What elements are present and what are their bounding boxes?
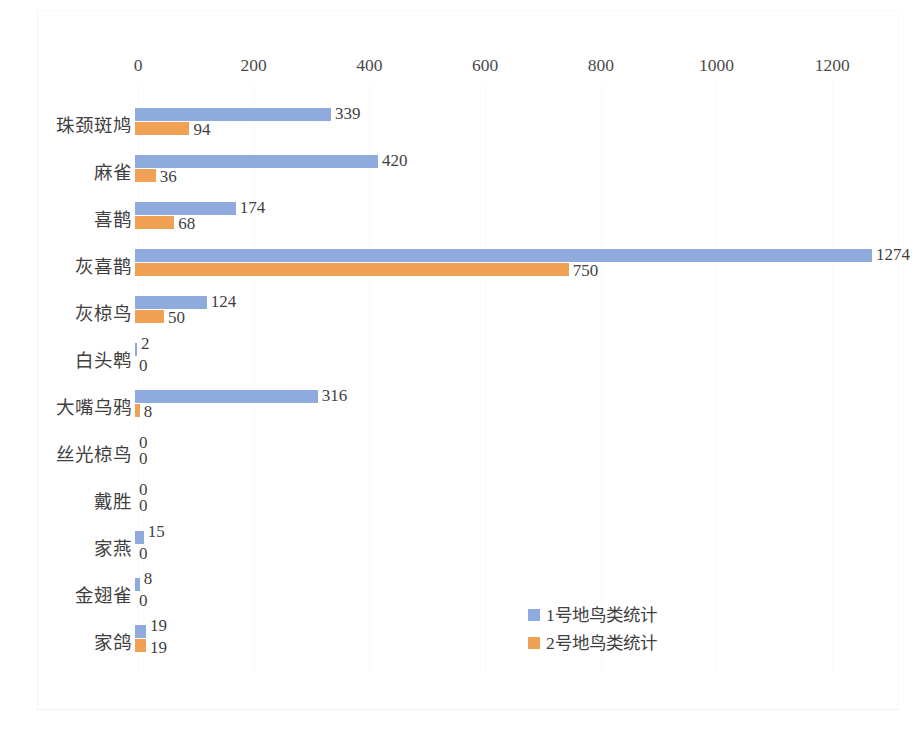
- bar-group: 3168: [135, 390, 318, 417]
- category-label-5: 白头鹎: [0, 346, 132, 376]
- bar-1号地鸟类统计-家燕[interactable]: 15: [135, 531, 144, 544]
- bar-2号地鸟类统计-大嘴乌鸦[interactable]: 8: [135, 404, 140, 417]
- chart-row: 大嘴乌鸦3168: [0, 385, 915, 432]
- x-tick-800: 800: [588, 52, 614, 78]
- bar-value-label: 1274: [876, 245, 910, 265]
- x-tick-1000: 1000: [699, 52, 734, 78]
- bar-1号地鸟类统计-珠颈斑鸠[interactable]: 339: [135, 108, 331, 121]
- bar-value-label: 2: [141, 334, 150, 354]
- category-label-6: 大嘴乌鸦: [0, 393, 132, 423]
- bar-2号地鸟类统计-家鸽[interactable]: 19: [135, 639, 146, 652]
- bar-2号地鸟类统计-灰椋鸟[interactable]: 50: [135, 310, 164, 323]
- category-label-8: 戴胜: [0, 487, 132, 517]
- x-axis-tick-labels: 020040060080010001200: [0, 52, 915, 78]
- bar-group: 150: [135, 531, 144, 558]
- category-label-0: 珠颈斑鸠: [0, 111, 132, 141]
- bar-value-label: 0: [139, 544, 148, 564]
- bar-2号地鸟类统计-喜鹊[interactable]: 68: [135, 216, 174, 229]
- bar-value-label: 94: [193, 120, 210, 140]
- bar-value-label: 0: [139, 449, 148, 469]
- legend-item-1[interactable]: 2号地鸟类统计: [528, 629, 657, 657]
- category-label-9: 家燕: [0, 534, 132, 564]
- bar-value-label: 68: [178, 214, 195, 234]
- bar-1号地鸟类统计-白头鹎[interactable]: 2: [135, 343, 137, 356]
- bar-value-label: 124: [211, 292, 237, 312]
- bar-value-label: 50: [168, 308, 185, 328]
- category-label-11: 家鸽: [0, 628, 132, 658]
- bar-group: 20: [135, 343, 137, 370]
- bar-group: 1274750: [135, 249, 872, 276]
- bar-group: 17468: [135, 202, 236, 229]
- legend-label: 2号地鸟类统计: [546, 629, 657, 657]
- x-tick-0: 0: [134, 52, 143, 78]
- bar-value-label: 750: [573, 261, 599, 281]
- category-label-7: 丝光椋鸟: [0, 440, 132, 470]
- category-label-1: 麻雀: [0, 158, 132, 188]
- chart-row: 白头鹎20: [0, 338, 915, 385]
- bar-group: 1919: [135, 625, 146, 652]
- bar-value-label: 316: [322, 386, 348, 406]
- legend-swatch-icon: [528, 609, 540, 621]
- bar-value-label: 420: [382, 151, 408, 171]
- chart-row: 戴胜00: [0, 479, 915, 526]
- bar-value-label: 36: [160, 167, 177, 187]
- bar-value-label: 0: [139, 496, 148, 516]
- chart-row: 家鸽1919: [0, 620, 915, 667]
- bar-1号地鸟类统计-金翅雀[interactable]: 8: [135, 578, 140, 591]
- bar-value-label: 0: [139, 356, 148, 376]
- bar-value-label: 8: [144, 402, 153, 422]
- plot-area: 珠颈斑鸠33994麻雀42036喜鹊17468灰喜鹊1274750灰椋鸟1245…: [0, 82, 915, 672]
- legend-label: 1号地鸟类统计: [546, 601, 657, 629]
- chart-row: 丝光椋鸟00: [0, 432, 915, 479]
- legend-swatch-icon: [528, 637, 540, 649]
- chart-row: 灰椋鸟12450: [0, 291, 915, 338]
- bar-1号地鸟类统计-大嘴乌鸦[interactable]: 316: [135, 390, 318, 403]
- category-label-4: 灰椋鸟: [0, 299, 132, 329]
- bar-group: 42036: [135, 155, 378, 182]
- legend-item-0[interactable]: 1号地鸟类统计: [528, 601, 657, 629]
- chart-row: 金翅雀80: [0, 573, 915, 620]
- category-label-10: 金翅雀: [0, 581, 132, 611]
- bar-value-label: 19: [150, 638, 167, 658]
- chart-row: 珠颈斑鸠33994: [0, 103, 915, 150]
- chart-row: 家燕150: [0, 526, 915, 573]
- bar-value-label: 0: [139, 591, 148, 611]
- bar-value-label: 174: [240, 198, 266, 218]
- bar-group: 33994: [135, 108, 331, 135]
- x-tick-200: 200: [241, 52, 267, 78]
- bar-1号地鸟类统计-家鸽[interactable]: 19: [135, 625, 146, 638]
- category-label-2: 喜鹊: [0, 205, 132, 235]
- x-tick-600: 600: [472, 52, 498, 78]
- bar-value-label: 8: [144, 569, 153, 589]
- bar-value-label: 339: [335, 104, 361, 124]
- bar-value-label: 15: [148, 522, 165, 542]
- chart-row: 灰喜鹊1274750: [0, 244, 915, 291]
- bar-1号地鸟类统计-灰喜鹊[interactable]: 1274: [135, 249, 872, 262]
- x-tick-400: 400: [356, 52, 382, 78]
- bar-group: 12450: [135, 296, 207, 323]
- chart-row: 麻雀42036: [0, 150, 915, 197]
- bar-value-label: 19: [150, 616, 167, 636]
- bar-2号地鸟类统计-灰喜鹊[interactable]: 750: [135, 263, 569, 276]
- bar-group: 80: [135, 578, 140, 605]
- bar-2号地鸟类统计-珠颈斑鸠[interactable]: 94: [135, 122, 189, 135]
- chart-legend: 1号地鸟类统计2号地鸟类统计: [528, 601, 657, 657]
- bar-2号地鸟类统计-麻雀[interactable]: 36: [135, 169, 156, 182]
- category-label-3: 灰喜鹊: [0, 252, 132, 282]
- x-tick-1200: 1200: [815, 52, 850, 78]
- chart-row: 喜鹊17468: [0, 197, 915, 244]
